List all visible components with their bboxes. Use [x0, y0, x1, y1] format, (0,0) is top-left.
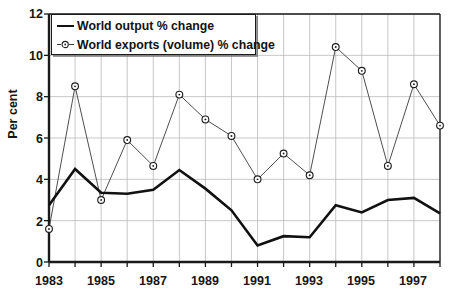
legend-item-world-exports: World exports (volume) % change [57, 35, 275, 54]
legend-item-label: World exports (volume) % change [77, 38, 275, 52]
legend-item-label: World output % change [77, 19, 214, 33]
series-world-output [49, 169, 440, 245]
legend-item-world-output: World output % change [57, 16, 214, 35]
chart-figure: Per cent 12 10 8 6 4 2 0 1983 1985 1987 … [0, 0, 456, 299]
circle-marker-icon [57, 40, 74, 49]
line-swatch-icon [57, 25, 74, 27]
legend: World output % change World exports (vol… [51, 14, 256, 55]
